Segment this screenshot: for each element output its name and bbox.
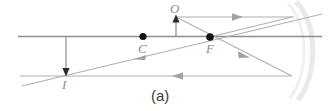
reflected-parallel-lower-ray-arrowhead [172,72,183,80]
figure-caption: (a) [151,88,169,103]
label-focal-point-f: F [206,42,214,55]
reflected-upper-ray [210,17,292,37]
incident-parallel-ray-arrowhead [232,13,243,21]
point-f-marker [206,33,214,41]
ray-through-focus-arrowhead [238,51,250,58]
label-image-i: I [62,78,66,91]
long-diagonal-ray [22,14,322,86]
point-c-marker [139,33,146,40]
mirror-surface-arc-inner [288,4,304,98]
ray-diagram-figure: O C F I (a) [0,0,333,111]
label-center-of-curvature-c: C [138,42,147,55]
label-object-o: O [170,2,179,15]
